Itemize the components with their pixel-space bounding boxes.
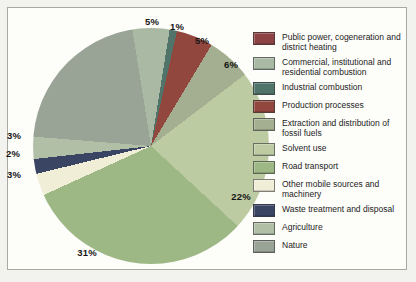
pie-percent-label: 31%	[77, 247, 97, 258]
legend-label: Solvent use	[282, 143, 326, 153]
legend-label: Other mobile sources and machinery	[282, 179, 379, 199]
pie-percent-label: 6%	[224, 59, 238, 70]
legend-swatch	[253, 100, 275, 113]
legend-swatch	[253, 118, 275, 131]
legend: Public power, cogeneration and district …	[253, 32, 405, 253]
pie-percent-label: 2%	[6, 148, 20, 159]
legend-label: Nature	[282, 240, 308, 250]
legend-item: Industrial combustion	[253, 82, 405, 95]
pie-percent-label: 5%	[195, 35, 209, 46]
legend-label: Commercial, institutional and residentia…	[282, 57, 391, 77]
pie-percent-label: 3%	[7, 169, 21, 180]
legend-item: Waste treatment and disposal	[253, 204, 405, 217]
pie-percent-label: 22%	[231, 191, 251, 202]
legend-swatch	[253, 240, 275, 253]
legend-swatch	[253, 222, 275, 235]
legend-swatch	[253, 32, 275, 45]
legend-swatch	[253, 82, 275, 95]
legend-item: Extraction and distribution of fossil fu…	[253, 118, 405, 138]
legend-swatch	[253, 143, 275, 156]
legend-label: Industrial combustion	[282, 82, 362, 92]
legend-item: Nature	[253, 240, 405, 253]
legend-item: Production processes	[253, 100, 405, 113]
legend-item: Other mobile sources and machinery	[253, 179, 405, 199]
legend-label: Extraction and distribution of fossil fu…	[282, 118, 389, 138]
pie-percent-label: 3%	[7, 130, 21, 141]
legend-swatch	[253, 179, 275, 192]
legend-item: Commercial, institutional and residentia…	[253, 57, 405, 77]
legend-swatch	[253, 161, 275, 174]
legend-swatch	[253, 204, 275, 217]
legend-label: Production processes	[282, 100, 364, 110]
legend-label: Road transport	[282, 161, 338, 171]
pie-percent-label: 5%	[145, 16, 159, 27]
legend-label: Public power, cogeneration and district …	[282, 32, 401, 52]
legend-item: Agriculture	[253, 222, 405, 235]
legend-item: Road transport	[253, 161, 405, 174]
legend-item: Public power, cogeneration and district …	[253, 32, 405, 52]
chart-figure: 5%1%5%6%22%31%3%2%3% Public power, cogen…	[0, 0, 416, 282]
legend-label: Waste treatment and disposal	[282, 204, 394, 214]
legend-label: Agriculture	[282, 222, 323, 232]
legend-swatch	[253, 57, 275, 70]
legend-item: Solvent use	[253, 143, 405, 156]
pie-percent-label: 1%	[170, 21, 184, 32]
